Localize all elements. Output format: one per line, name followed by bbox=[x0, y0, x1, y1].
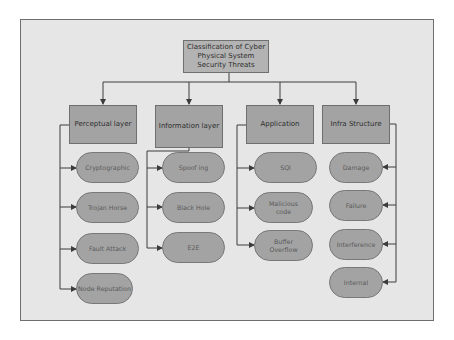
category-label: Information layer bbox=[159, 122, 219, 131]
root-line-3: Security Threats bbox=[187, 61, 265, 70]
threat-buffer-overflow: Buffer Overflow bbox=[254, 230, 313, 261]
threat-fault-attack: Fault Attack bbox=[76, 233, 139, 264]
category-label: Application bbox=[260, 120, 299, 129]
threat-label: Interference bbox=[337, 241, 376, 249]
root-line-2: Physical System bbox=[187, 52, 265, 61]
application-spine bbox=[237, 125, 246, 245]
threat-node-reputation: Node Reputation bbox=[76, 273, 133, 304]
threat-label: E2E bbox=[188, 244, 200, 252]
root-line-1: Classification of Cyber bbox=[187, 43, 265, 52]
category-label: Infra Structure bbox=[331, 120, 382, 129]
threat-label: Node Reputation bbox=[78, 285, 131, 293]
threat-cryptographic: Cryptographic bbox=[76, 152, 139, 183]
threat-black-hole: Black Hole bbox=[162, 192, 225, 223]
threat-label: Trojan Horse bbox=[88, 204, 127, 212]
threat-label: Fault Attack bbox=[89, 245, 126, 253]
category-information-layer: Information layer bbox=[155, 105, 223, 148]
threat-trojan-horse: Trojan Horse bbox=[76, 192, 139, 223]
threat-e2e: E2E bbox=[162, 232, 225, 263]
threat-label: Cryptographic bbox=[85, 164, 130, 172]
threat-sql: SQl bbox=[254, 152, 317, 183]
threat-label: SQl bbox=[280, 164, 291, 172]
infra-spine bbox=[390, 124, 396, 282]
threat-label: Internal bbox=[344, 279, 368, 287]
category-label: Perceptual layer bbox=[75, 120, 132, 129]
threat-label: Buffer Overflow bbox=[266, 238, 302, 254]
threat-label: Damage bbox=[343, 164, 370, 172]
threat-interference: Interference bbox=[329, 229, 383, 260]
category-infra-structure: Infra Structure bbox=[322, 105, 390, 144]
threat-label: Malicious code bbox=[266, 200, 302, 216]
threat-spoofing: Spoof ing bbox=[162, 152, 225, 183]
threat-label: Black Hole bbox=[177, 204, 210, 212]
root-node: Classification of Cyber Physical System … bbox=[183, 40, 269, 73]
threat-malicious-code: Malicious code bbox=[254, 192, 313, 223]
category-perceptual-layer: Perceptual layer bbox=[69, 105, 137, 144]
threat-label: Spoof ing bbox=[179, 164, 209, 172]
threat-failure: Failure bbox=[329, 190, 383, 221]
threat-label: Failure bbox=[346, 202, 367, 210]
threat-damage: Damage bbox=[329, 152, 383, 183]
category-application: Application bbox=[246, 105, 314, 144]
threat-internal: Internal bbox=[329, 267, 383, 298]
